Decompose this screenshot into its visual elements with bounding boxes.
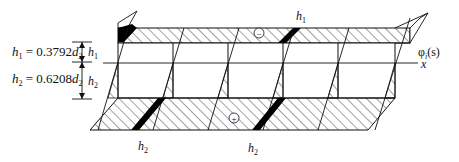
h2-formula: h2 = 0.6208d2 [12, 71, 83, 88]
minus-sign-marker: − [254, 28, 264, 39]
h2-dimension-label: h2 [88, 74, 98, 90]
bottom-h2-label-right: h2 [248, 141, 258, 157]
h1-formula: h1 = 0.3792d2 [12, 44, 83, 61]
h1-dimension-label: h1 [88, 45, 98, 61]
svg-text:−: − [256, 29, 261, 39]
web-cells [118, 43, 410, 98]
top-flange [118, 11, 428, 43]
phi-function-label: φi(s) [418, 45, 440, 61]
svg-text:+: + [231, 114, 236, 124]
stress-distribution-diagram: x − + h1 = 0.3792d2 h2 = 0.6208d2 h1 h2 … [0, 0, 459, 162]
bottom-h2-label-left: h2 [138, 139, 148, 155]
plus-sign-marker: + [229, 113, 239, 124]
top-h1-label: h1 [296, 9, 306, 25]
bottom-flange [90, 98, 395, 130]
